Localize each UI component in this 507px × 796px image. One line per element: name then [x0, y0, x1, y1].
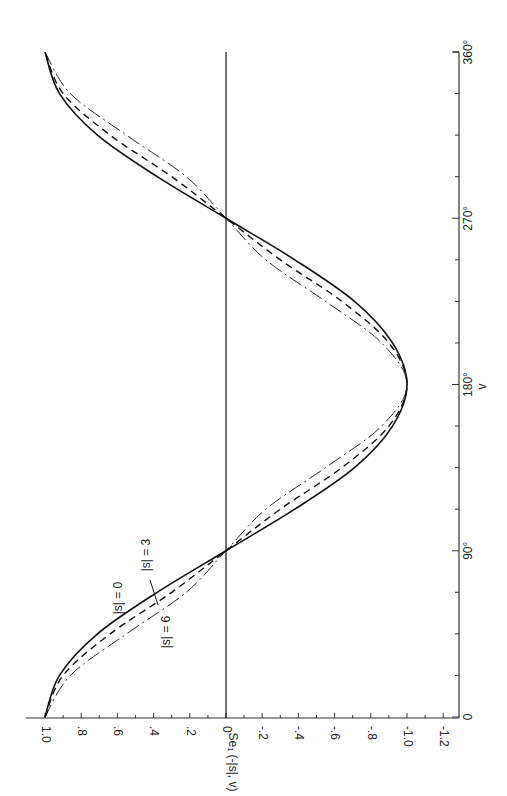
curve-label: |s| = 6: [159, 615, 173, 648]
v-axis-title: v: [475, 384, 489, 390]
se-axis-title: Se₁ (-|s|, v): [226, 733, 240, 792]
curve-label: |s| = 0: [111, 581, 125, 614]
curve-annotations: |s| = 0|s| = 3|s| = 6: [111, 538, 173, 648]
se-tick-label: -.8: [365, 726, 379, 740]
se-tick-label: -.4: [292, 726, 306, 740]
v-tick-label: 360°: [461, 39, 475, 64]
v-tick-label: 180°: [461, 372, 475, 397]
se-tick-label: -1.2: [437, 726, 451, 747]
se-tick-label: -.2: [256, 726, 270, 740]
se-tick-label: .6: [111, 726, 125, 736]
v-tick-label: 90°: [461, 541, 475, 559]
tick-labels: 1.0.8.6.4.20-.2-.4-.6-.8-1.0-1.2090°180°…: [39, 39, 489, 791]
se-tick-label: .4: [147, 726, 161, 736]
chart: 1.0.8.6.4.20-.2-.4-.6-.8-1.0-1.2090°180°…: [0, 0, 507, 796]
se-tick-label: -.6: [328, 726, 342, 740]
se-tick-label: 1.0: [39, 726, 53, 743]
se-tick-label: -1.0: [401, 726, 415, 747]
v-tick-label: 0: [461, 713, 475, 720]
se-tick-label: .2: [184, 726, 198, 736]
curve-label: |s| = 3: [139, 538, 153, 571]
se-tick-label: .8: [75, 726, 89, 736]
v-tick-label: 270°: [461, 206, 475, 231]
axes: [26, 52, 459, 718]
